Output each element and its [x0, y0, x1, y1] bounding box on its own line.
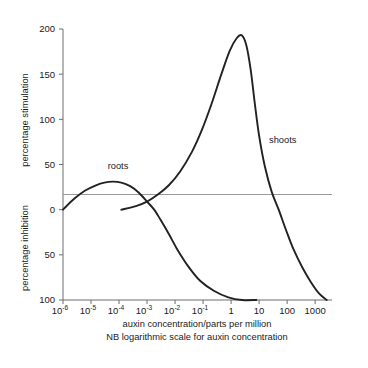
y-tick-label: 200	[39, 23, 55, 34]
x-tick-label: 100	[279, 305, 295, 316]
y-axis-title-stimulation: percentage stimulation	[20, 73, 30, 167]
y-tick-label: 0	[50, 204, 55, 215]
x-axis-tick-labels: 10-610-510-410-310-210-11101001000	[52, 304, 326, 316]
x-tick-label: 10-4	[108, 304, 125, 316]
x-tick-label: 1000	[305, 305, 326, 316]
x-axis-note: NB logarithmic scale for auxin concentra…	[106, 332, 287, 342]
x-tick-label: 10	[254, 305, 265, 316]
y-tick-label: 50	[44, 249, 55, 260]
plot-axes	[63, 29, 332, 300]
x-tick-label: 10-1	[192, 304, 209, 316]
auxin-response-chart: 20015010050050100 10-610-510-410-310-210…	[0, 0, 368, 368]
x-tick-label: 10-5	[80, 304, 97, 316]
curve-label-roots: roots	[108, 161, 129, 171]
x-axis-title: auxin concentration/parts per million	[123, 319, 272, 329]
x-tick-label: 10-3	[136, 304, 153, 316]
y-axis-title-inhibition: percentage inhibition	[20, 205, 30, 291]
y-axis-tick-labels: 20015010050050100	[39, 23, 55, 305]
y-tick-label: 100	[39, 294, 55, 305]
chart-canvas: 20015010050050100 10-610-510-410-310-210…	[0, 0, 368, 368]
curve-roots	[63, 182, 256, 301]
y-tick-label: 100	[39, 114, 55, 125]
x-tick-label: 1	[228, 305, 233, 316]
y-tick-label: 50	[44, 159, 55, 170]
y-tick-label: 150	[39, 69, 55, 80]
x-tick-label: 10-6	[52, 304, 69, 316]
curve-label-shoots: shoots	[269, 135, 297, 145]
y-axis-ticks	[59, 29, 63, 300]
curve-shoots	[121, 35, 327, 300]
x-tick-label: 10-2	[164, 304, 181, 316]
data-curves	[63, 35, 327, 300]
x-axis-ticks	[63, 300, 315, 304]
